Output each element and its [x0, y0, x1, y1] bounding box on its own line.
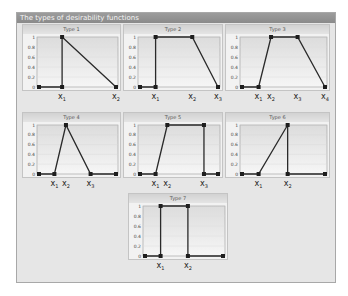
y-tick-label: 0.2 — [129, 75, 136, 80]
line-chart: 10.80.60.40.20 — [226, 25, 331, 92]
chart-panel-type-2: Type 210.80.60.40.20 — [123, 24, 223, 91]
y-tick-label: 0.4 — [129, 65, 136, 70]
x-axis-label-x2: x2 — [112, 93, 120, 103]
x-label-subscript: 1 — [161, 265, 164, 271]
x-axis-label-x1: x1 — [255, 93, 263, 103]
data-point-marker — [202, 172, 206, 176]
x-label-subscript: 2 — [193, 96, 196, 102]
y-tick-label: 0.8 — [231, 132, 238, 137]
x-axis-label-x2: x2 — [284, 180, 292, 190]
chart-panel-type-6: Type 610.80.60.40.20 — [225, 112, 330, 178]
x-label-subscript: 1 — [259, 183, 262, 189]
y-tick-label: 1 — [138, 204, 141, 209]
data-point-marker — [323, 85, 327, 89]
x-label-subscript: 1 — [55, 183, 58, 189]
data-point-marker — [60, 35, 64, 39]
x-axis-label-x2: x2 — [163, 180, 171, 190]
data-point-marker — [186, 254, 190, 258]
x-axis-label-x2: x2 — [184, 262, 192, 272]
data-point-marker — [114, 85, 118, 89]
y-tick-label: 0.8 — [129, 45, 136, 50]
line-chart: 10.80.60.40.20 — [226, 113, 331, 179]
line-chart: 10.80.60.40.20 — [124, 25, 224, 92]
data-point-marker — [216, 85, 220, 89]
data-point-marker — [257, 85, 261, 89]
data-point-marker — [286, 123, 290, 127]
y-tick-label: 0.2 — [134, 244, 141, 249]
x-label-subscript: 1 — [63, 96, 66, 102]
y-tick-label: 0.4 — [231, 152, 238, 157]
data-point-marker — [286, 172, 290, 176]
data-point-marker — [190, 35, 194, 39]
y-tick-label: 1 — [32, 123, 35, 128]
data-point-marker — [240, 85, 244, 89]
y-tick-label: 0.6 — [129, 142, 136, 147]
x-label-subscript: 2 — [189, 265, 192, 271]
x-axis-label-x1: x1 — [157, 262, 165, 272]
x-label-subscript: 2 — [168, 183, 171, 189]
x-label-subscript: 2 — [288, 183, 291, 189]
data-point-marker — [202, 123, 206, 127]
y-tick-label: 0.8 — [129, 132, 136, 137]
data-point-marker — [37, 172, 41, 176]
data-point-marker — [216, 172, 220, 176]
y-tick-label: 0.2 — [231, 75, 238, 80]
data-point-marker — [159, 204, 163, 208]
data-point-marker — [186, 204, 190, 208]
y-tick-label: 0.2 — [28, 162, 35, 167]
data-point-marker — [154, 35, 158, 39]
x-axis-label-x1: x1 — [152, 93, 160, 103]
y-tick-label: 0.6 — [231, 55, 238, 60]
x-label-subscript: 1 — [156, 96, 159, 102]
y-tick-label: 0.4 — [28, 152, 35, 157]
y-tick-label: 1 — [32, 35, 35, 40]
data-point-marker — [52, 172, 56, 176]
y-tick-label: 0.8 — [134, 214, 141, 219]
data-point-marker — [60, 85, 64, 89]
chart-panel-type-1: Type 110.80.60.40.20 — [22, 24, 121, 91]
data-point-marker — [159, 254, 163, 258]
x-axis-label-x1: x1 — [255, 180, 263, 190]
data-point-marker — [154, 85, 158, 89]
x-label-subscript: 1 — [259, 96, 262, 102]
y-tick-label: 1 — [235, 123, 238, 128]
y-tick-label: 0.4 — [134, 234, 141, 239]
x-axis-label-x3: x3 — [294, 93, 302, 103]
y-tick-label: 0.2 — [28, 75, 35, 80]
y-tick-label: 1 — [133, 35, 136, 40]
line-chart: 10.80.60.40.20 — [23, 113, 122, 179]
y-tick-label: 0 — [235, 85, 238, 90]
y-tick-label: 0.6 — [231, 142, 238, 147]
y-tick-label: 0 — [32, 85, 35, 90]
x-axis-label-x3: x3 — [87, 180, 95, 190]
x-axis-label-x1: x1 — [58, 93, 66, 103]
y-tick-label: 1 — [235, 35, 238, 40]
x-axis-label-x1: x1 — [152, 180, 160, 190]
x-label-subscript: 1 — [156, 183, 159, 189]
data-point-marker — [143, 254, 147, 258]
x-axis-label-x2: x2 — [62, 180, 70, 190]
y-tick-label: 0.8 — [28, 45, 35, 50]
y-tick-label: 0 — [235, 172, 238, 177]
x-label-subscript: 3 — [219, 96, 222, 102]
x-label-subscript: 3 — [91, 183, 94, 189]
data-point-marker — [296, 35, 300, 39]
data-point-marker — [64, 123, 68, 127]
y-tick-label: 0.6 — [129, 55, 136, 60]
y-tick-label: 0 — [133, 85, 136, 90]
y-tick-label: 0 — [133, 172, 136, 177]
y-tick-label: 0.4 — [129, 152, 136, 157]
chart-panel-type-5: Type 510.80.60.40.20 — [123, 112, 223, 178]
x-label-subscript: 2 — [272, 96, 275, 102]
y-tick-label: 0 — [32, 172, 35, 177]
data-point-marker — [240, 172, 244, 176]
y-tick-label: 0.4 — [231, 65, 238, 70]
x-axis-label-x3: x3 — [214, 93, 222, 103]
data-point-marker — [165, 123, 169, 127]
y-tick-label: 0.2 — [129, 162, 136, 167]
data-point-marker — [89, 172, 93, 176]
y-tick-label: 0.6 — [28, 55, 35, 60]
chart-panel-type-7: Type 710.80.60.40.20 — [128, 193, 228, 260]
data-point-marker — [154, 172, 158, 176]
x-label-subscript: 2 — [67, 183, 70, 189]
